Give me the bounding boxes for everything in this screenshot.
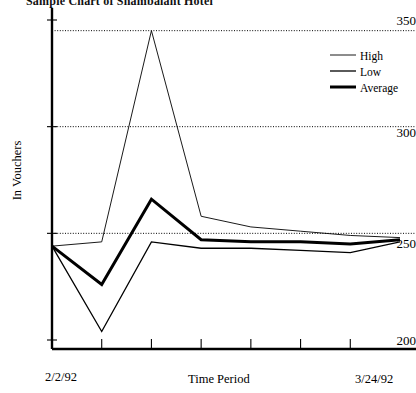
series-line-average bbox=[52, 199, 400, 284]
legend-label-average: Average bbox=[360, 82, 398, 94]
series-line-low bbox=[52, 242, 400, 332]
series-line-high bbox=[52, 31, 400, 246]
line-chart: Sample Chart of Shambalaht Hotel 350 300… bbox=[0, 0, 416, 393]
plot-area bbox=[0, 0, 416, 393]
x-axis-end-label: 3/24/92 bbox=[355, 372, 393, 387]
x-axis-title: Time Period bbox=[188, 372, 250, 387]
legend-label-high: High bbox=[360, 50, 383, 62]
legend-label-low: Low bbox=[360, 66, 381, 78]
x-axis-start-label: 2/2/92 bbox=[45, 370, 77, 385]
